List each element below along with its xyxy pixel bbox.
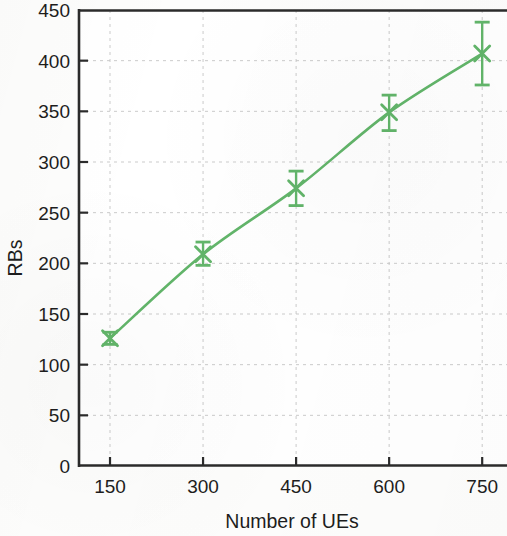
y-tick-label: 250 [38,203,70,224]
y-axis-title: RBs [4,239,26,276]
x-axis-title: Number of UEs [225,510,359,532]
y-tick-label: 100 [38,355,70,376]
line-chart-plot: 050100150200250300350400450 150300450600… [0,0,507,536]
x-axis-tick-labels: 150300450600750 [94,476,498,497]
x-tick-label: 450 [280,476,312,497]
chart-figure: 050100150200250300350400450 150300450600… [0,0,507,536]
y-tick-label: 300 [38,152,70,173]
x-tick-label: 150 [94,476,126,497]
y-tick-label: 50 [49,405,70,426]
y-tick-label: 0 [59,456,70,477]
y-tick-label: 450 [38,0,70,21]
y-tick-label: 200 [38,253,70,274]
x-tick-label: 600 [373,476,405,497]
x-tick-label: 300 [187,476,219,497]
y-tick-label: 400 [38,51,70,72]
y-axis-tick-labels: 050100150200250300350400450 [38,0,70,477]
x-tick-label: 750 [466,476,498,497]
y-tick-label: 350 [38,101,70,122]
y-tick-label: 150 [38,304,70,325]
